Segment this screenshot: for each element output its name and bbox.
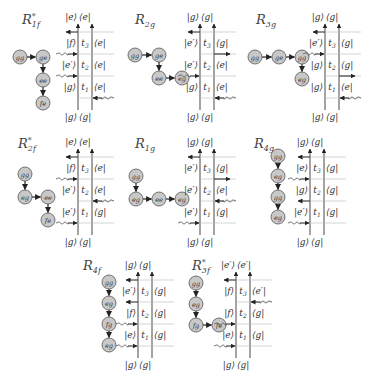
graph-node: fe [36,96,50,110]
panel-R2f: ggegeefe|e⟩⟨e||g⟩⟨g||f⟩t3⟨e||e′⟩t2⟨e||e′… [18,137,114,248]
ket-state: |e⟩ [124,330,136,341]
svg-text:gg: gg [298,54,306,62]
time-label: t1 [239,330,246,341]
svg-text:|g⟩: |g⟩ [187,137,199,148]
graph-node: gg [18,167,32,181]
time-label: t1 [81,207,88,218]
panel-R4g: ggegggeg|g⟩⟨g||g⟩⟨g||e⟩t3⟨g||g⟩t2⟨g||e′⟩… [271,137,346,248]
graph-node: eg [271,169,285,183]
time-label: t2 [328,60,336,71]
panel-R3f: ggegfgfe|e′⟩⟨e′||g⟩⟨g||f⟩t3⟨e′||f⟩t2⟨g||… [189,260,272,371]
svg-text:ee: ee [155,75,163,83]
bra-state: ⟨g| [154,308,166,319]
svg-text:⟨g|: ⟨g| [139,260,151,271]
ket-state: |e⟩ [222,330,234,341]
svg-text:⟨g|: ⟨g| [139,360,151,371]
bra-state: ⟨e| [216,185,228,196]
bra-state: ⟨g| [252,308,264,319]
bra-state: ⟨e| [94,185,106,196]
svg-text:|g⟩: |g⟩ [187,12,199,23]
time-label: t1 [203,207,210,218]
ket-state: |e⟩ [296,163,308,174]
svg-text:⟨g|: ⟨g| [326,12,338,23]
svg-text:|g⟩: |g⟩ [223,360,235,371]
svg-text:⟨g|: ⟨g| [201,137,213,148]
svg-text:⟨e′|: ⟨e′| [237,260,251,271]
bra-state: ⟨e| [94,60,106,71]
bra-state: ⟨g| [154,330,166,341]
ket-state: |g⟩ [311,82,323,93]
svg-text:eg: eg [105,342,113,350]
graph-node: eg [295,72,309,86]
graph-node: gg [128,48,142,62]
graph-node: gg [102,275,116,289]
svg-text:|e′⟩: |e′⟩ [221,260,235,271]
time-label: t3 [203,163,211,174]
svg-text:ee: ee [39,77,47,85]
svg-text:fe: fe [39,100,46,108]
bra-state: ⟨e| [94,82,106,93]
time-label: t2 [239,308,247,319]
bra-state: ⟨g| [154,286,166,297]
bra-state: ⟨e| [216,82,228,93]
ket-state: |g⟩ [296,185,308,196]
svg-text:eg: eg [105,300,113,308]
graph-node: ee [152,71,166,85]
svg-text:|g⟩: |g⟩ [297,137,309,148]
svg-text:gg: gg [131,52,139,60]
svg-text:⟨g|: ⟨g| [237,360,249,371]
bra-state: ⟨e| [94,38,106,49]
graph-node: eg [18,190,32,204]
graph-node: ge [272,50,286,64]
time-label: t2 [81,185,89,196]
svg-text:|g⟩: |g⟩ [65,112,77,123]
time-label: t2 [81,60,89,71]
time-label: t3 [328,38,336,49]
svg-text:⟨g|: ⟨g| [326,112,338,123]
svg-text:eg: eg [274,173,282,181]
graph-node: gg [271,190,285,204]
svg-text:⟨g|: ⟨g| [201,237,213,248]
graph-node: eg [271,210,285,224]
bra-state: ⟨g| [216,38,228,49]
svg-text:gg: gg [132,173,140,181]
svg-text:⟨e|: ⟨e| [79,12,91,23]
panel-R3g: gggeggeg|g⟩⟨g||g⟩⟨g||e′⟩t3⟨g||g⟩t2⟨g||g⟩… [248,12,361,123]
svg-text:gg: gg [251,54,259,62]
bra-state: ⟨g| [341,60,353,71]
svg-text:ee: ee [44,194,52,202]
svg-text:eg: eg [192,301,200,309]
graph-node: fg [189,318,203,332]
graph-node: ge [152,48,166,62]
diagram-canvas: gggeeefe|e⟩⟨e||g⟩⟨g||f⟩t3⟨e||e′⟩t2⟨e||g⟩… [0,0,370,379]
bra-state: ⟨e| [341,82,353,93]
panel-R2g: gggeeeeg|g⟩⟨g||g⟩⟨g||e′⟩t3⟨g||e′⟩t2⟨e||g… [128,12,236,123]
svg-text:⟨g|: ⟨g| [201,12,213,23]
svg-text:|e⟩: |e⟩ [65,137,77,148]
graph-node: gg [295,50,309,64]
time-label: t1 [81,82,88,93]
ket-state: |e′⟩ [62,207,76,218]
bra-state: ⟨e′| [252,286,266,297]
svg-text:eg: eg [21,194,29,202]
graph-node: eg [189,297,203,311]
svg-text:|g⟩: |g⟩ [187,237,199,248]
time-label: t3 [81,163,89,174]
svg-text:⟨g|: ⟨g| [311,237,323,248]
svg-text:⟨e|: ⟨e| [79,137,91,148]
graph-node: eg [129,192,143,206]
ket-state: |e′⟩ [184,185,198,196]
graph-node: ee [152,192,166,206]
svg-text:gg: gg [105,279,113,287]
svg-text:|g⟩: |g⟩ [312,12,324,23]
panel-R1g: ggegeeeg|g⟩⟨g||g⟩⟨g||e′⟩t3⟨g||e′⟩t2⟨e||e… [129,137,236,248]
ket-state: |e′⟩ [294,207,308,218]
bra-state: ⟨e| [94,163,106,174]
graph-node: gg [189,276,203,290]
bra-state: ⟨g| [326,163,338,174]
bra-state: ⟨g| [341,38,353,49]
ket-state: |e′⟩ [184,60,198,71]
time-label: t3 [313,163,321,174]
svg-text:fg: fg [105,321,113,329]
svg-text:⟨g|: ⟨g| [201,112,213,123]
